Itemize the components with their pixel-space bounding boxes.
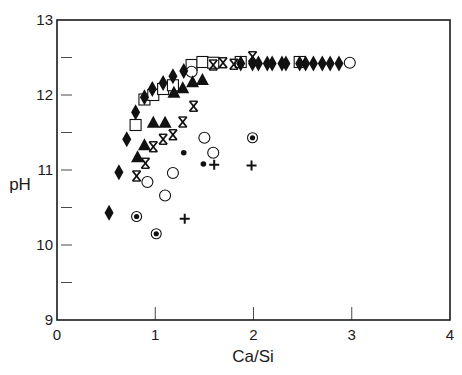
triangle-marker xyxy=(138,138,151,150)
dot-marker xyxy=(201,161,207,167)
diamond-marker xyxy=(334,56,343,72)
square-marker xyxy=(208,57,219,68)
data-markers xyxy=(105,52,356,239)
square-marker xyxy=(130,120,141,131)
diamond-marker xyxy=(105,205,114,221)
circle-marker xyxy=(167,168,178,179)
bullseye-center xyxy=(250,135,255,140)
x-tick-label: 2 xyxy=(249,326,257,343)
triangle-marker xyxy=(186,75,199,87)
chart-svg: 01234910111213 Ca/Si pH xyxy=(0,0,462,375)
x-tick-label: 1 xyxy=(151,326,159,343)
diamond-marker xyxy=(309,56,318,72)
square-marker xyxy=(197,57,208,68)
bullseye-center xyxy=(134,214,139,219)
y-tick-label: 10 xyxy=(36,236,53,253)
diamond-marker xyxy=(268,56,277,72)
y-tick-label: 12 xyxy=(36,86,53,103)
triangle-marker xyxy=(159,116,172,128)
circle-marker xyxy=(160,190,171,201)
scatter-chart: 01234910111213 Ca/Si pH xyxy=(0,0,462,375)
x-tick-label: 0 xyxy=(53,326,61,343)
diamond-marker xyxy=(114,164,123,180)
y-tick-label: 13 xyxy=(36,11,53,28)
triangle-marker xyxy=(147,116,160,128)
y-tick-label: 9 xyxy=(45,311,53,328)
x-tick-label: 4 xyxy=(446,326,454,343)
diamond-marker xyxy=(122,131,131,147)
diamond-marker xyxy=(318,56,327,72)
diamond-marker xyxy=(326,56,335,72)
triangle-marker xyxy=(196,73,209,85)
diamond-marker xyxy=(131,104,140,120)
y-tick-label: 11 xyxy=(37,161,53,178)
dot-marker xyxy=(181,150,187,156)
x-tick-label: 3 xyxy=(348,326,356,343)
y-axis-label: pH xyxy=(9,175,31,194)
circle-marker xyxy=(208,147,219,158)
circle-marker xyxy=(142,177,153,188)
bullseye-center xyxy=(154,231,159,236)
x-axis-label: Ca/Si xyxy=(232,347,274,366)
circle-marker xyxy=(199,132,210,143)
diamond-marker xyxy=(254,56,263,72)
circle-marker xyxy=(344,57,355,68)
